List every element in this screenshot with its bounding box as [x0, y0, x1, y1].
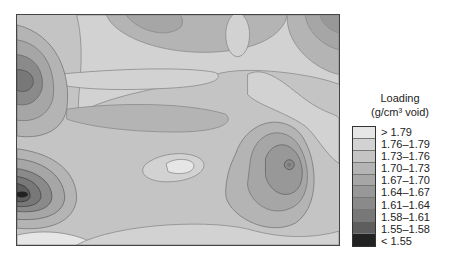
legend-label: < 1.55: [381, 235, 430, 247]
legend-label: 1.70–1.73: [381, 162, 430, 174]
legend-label: 1.67–1.70: [381, 174, 430, 186]
legend-swatch: [353, 139, 375, 151]
legend-title: Loading: [352, 91, 448, 105]
legend-label: 1.61–1.64: [381, 199, 430, 211]
legend-swatch: [353, 222, 375, 234]
legend-swatch: [353, 186, 375, 198]
legend-units: (g/cm³ void): [352, 105, 448, 119]
legend-swatch: [353, 127, 375, 139]
legend-swatch: [353, 151, 375, 163]
legend-swatch: [353, 210, 375, 222]
legend-label: 1.58–1.61: [381, 211, 430, 223]
legend-swatch: [353, 175, 375, 187]
legend-swatch: [353, 163, 375, 175]
legend-label: 1.55–1.58: [381, 223, 430, 235]
contour-map: [17, 15, 339, 245]
legend-label: 1.73–1.76: [381, 150, 430, 162]
legend-label: 1.64–1.67: [381, 186, 430, 198]
contour-plot: [16, 14, 340, 246]
legend-colorbar: [352, 126, 376, 247]
legend-label: > 1.79: [381, 126, 430, 138]
legend-swatch: [353, 234, 375, 246]
legend-swatch: [353, 198, 375, 210]
legend-labels: > 1.791.76–1.791.73–1.761.70–1.731.67–1.…: [381, 126, 430, 247]
legend-label: 1.76–1.79: [381, 138, 430, 150]
